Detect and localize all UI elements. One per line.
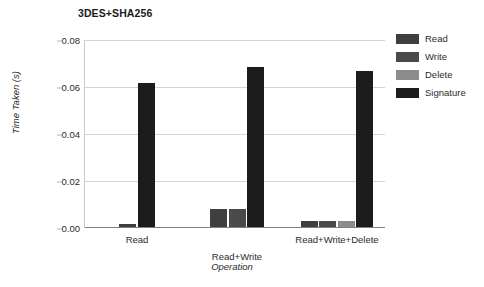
x-axis-baseline <box>85 227 385 229</box>
legend-label-write: Write <box>425 52 447 62</box>
y-axis-tick-mark <box>57 228 62 229</box>
y-axis-tick-label: 0.08 <box>62 35 81 46</box>
legend-swatch-write <box>396 52 419 62</box>
legend-item-signature[interactable]: Signature <box>396 85 466 101</box>
y-axis-tick-mark <box>57 87 62 88</box>
x-axis-label-3: Read+Write+Delete <box>295 234 378 245</box>
y-axis-title: Time Taken (s) <box>10 71 21 134</box>
bar-signature-2 <box>247 67 264 228</box>
bar-write-2 <box>229 209 246 228</box>
legend-item-read[interactable]: Read <box>396 31 466 47</box>
x-axis-title: Operation <box>211 261 253 272</box>
y-axis-tick-mark <box>57 134 62 135</box>
plot-area <box>85 40 385 228</box>
gridline <box>85 40 385 41</box>
x-axis-label-1: Read <box>126 234 149 245</box>
chart-title: 3DES+SHA256 <box>78 7 152 19</box>
bar-chart: 3DES+SHA256 Time Taken (s) 0.000.020.040… <box>0 0 484 287</box>
legend-label-signature: Signature <box>425 88 466 98</box>
legend-item-delete[interactable]: Delete <box>396 67 466 83</box>
y-axis-tick-mark <box>57 181 62 182</box>
legend-label-delete: Delete <box>425 70 452 80</box>
legend-swatch-read <box>396 34 419 44</box>
y-axis-tick-label: 0.02 <box>62 176 81 187</box>
legend-item-write[interactable]: Write <box>396 49 466 65</box>
bar-read-2 <box>210 209 227 228</box>
y-axis-tick-label: 0.00 <box>62 223 81 234</box>
legend-swatch-delete <box>396 70 419 80</box>
gridline <box>85 87 385 88</box>
legend-swatch-signature <box>396 88 419 98</box>
bar-signature-1 <box>138 83 155 228</box>
y-axis-tick-label: 0.06 <box>62 82 81 93</box>
y-axis-tick-mark <box>57 40 62 41</box>
gridline <box>85 181 385 182</box>
y-axis-tick-label: 0.04 <box>62 129 81 140</box>
legend: ReadWriteDeleteSignature <box>396 31 466 103</box>
gridline <box>85 134 385 135</box>
legend-label-read: Read <box>425 34 448 44</box>
bar-signature-3 <box>356 71 373 228</box>
